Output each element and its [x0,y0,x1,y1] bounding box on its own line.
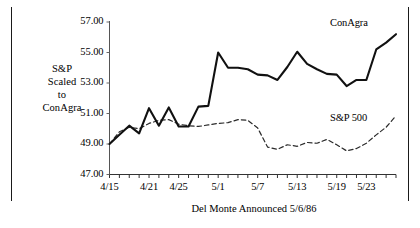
chart-caption: Del Monte Announced 5/6/86 [109,203,399,214]
y-axis-tick-label: 49.00 [58,137,104,148]
y-axis-tick-label: 53.00 [58,76,104,87]
x-axis-tick-label: 4/25 [159,181,199,192]
series-label-conagra: ConAgra [330,17,368,28]
x-axis-tick-label: 5/23 [346,181,386,192]
x-axis-tick-label: 4/15 [90,181,130,192]
chart-figure: S&P Scaled to ConAgra 57.0055.0053.0051.… [0,0,420,228]
y-axis-tick-label: 55.00 [58,46,104,57]
y-axis-tick-label: 47.00 [58,168,104,179]
series-line-conagra [110,34,397,144]
series-label-sp500: S&P 500 [330,112,367,123]
axis-lines [110,21,397,175]
y-axis-tick-label: 51.00 [58,107,104,118]
x-axis-tick-label: 5/1 [198,181,238,192]
x-axis-tick-label: 5/13 [277,181,317,192]
x-axis-tick-label: 5/7 [238,181,278,192]
y-axis-tick-label: 57.00 [58,15,104,26]
